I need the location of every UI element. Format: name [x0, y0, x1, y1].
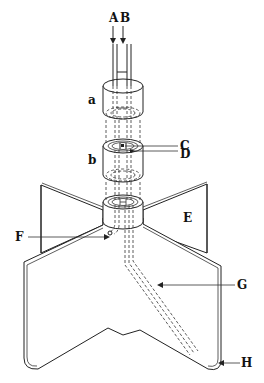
label-a-upper: A [108, 11, 119, 25]
label-f: F [15, 230, 24, 244]
label-g: G [237, 278, 247, 292]
label-b-upper: B [120, 11, 130, 25]
label-part-a: a [88, 93, 96, 107]
part-a-cap [103, 79, 143, 119]
label-part-b: b [88, 153, 96, 167]
part-b-sleeve [103, 139, 143, 182]
exploded-assembly-diagram: A B a b C D E F G H [0, 0, 264, 383]
inlet-arrows [110, 26, 126, 44]
label-d: D [180, 147, 190, 161]
label-e: E [183, 211, 192, 225]
vessel-collar [103, 195, 143, 229]
label-h: H [241, 356, 252, 370]
